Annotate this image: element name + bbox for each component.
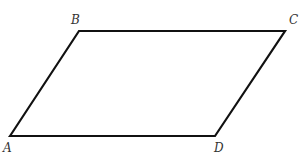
parallelogram-diagram: A B C D (0, 0, 307, 158)
vertex-label-b: B (70, 13, 80, 27)
vertex-label-c: C (289, 13, 298, 27)
diagram-canvas: A B C D (0, 0, 307, 158)
parallelogram-abcd (10, 31, 285, 136)
vertex-label-d: D (213, 141, 224, 155)
vertex-label-a: A (2, 141, 12, 155)
